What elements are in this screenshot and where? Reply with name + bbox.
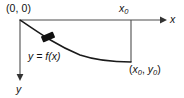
endpoint-x-var: x: [133, 63, 138, 75]
function-label: y = f(x): [28, 51, 60, 62]
y-axis-arrowhead: [17, 74, 24, 81]
origin-label: (0, 0): [6, 3, 31, 14]
endpoint-label: (x0, y0): [129, 64, 161, 75]
x-axis-arrowhead: [160, 17, 167, 24]
endpoint-y-subscript: 0: [153, 68, 157, 77]
x-zero-subscript: 0: [124, 7, 128, 16]
paren-close: ): [157, 63, 161, 75]
brachistochrone-diagram: (0, 0) x0 x y y = f(x) (x0, y0): [0, 0, 184, 98]
x-zero-label: x0: [119, 3, 128, 14]
y-axis-label: y: [16, 84, 21, 95]
diagram-canvas: [0, 0, 184, 98]
endpoint-x-subscript: 0: [138, 68, 142, 77]
x-axis-label: x: [170, 14, 175, 25]
